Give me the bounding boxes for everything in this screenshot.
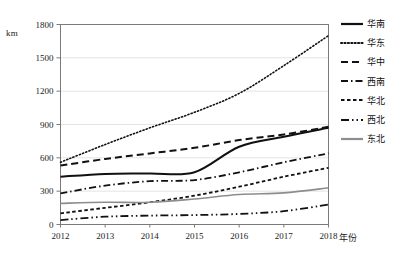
legend-label: 华东 <box>367 36 385 49</box>
x-tick-label: 2012 <box>52 231 70 241</box>
gridlines <box>61 25 329 192</box>
legend-label: 西北 <box>367 113 385 126</box>
x-axis-ticks: 2012201320142015201620172018 <box>52 225 339 241</box>
legend-swatch-华东 <box>340 38 364 48</box>
legend-swatch-东北 <box>340 134 364 144</box>
legend-label: 西南 <box>367 75 385 88</box>
legend-swatch-西南 <box>340 76 364 86</box>
x-tick-label: 2017 <box>275 231 294 241</box>
legend-swatch-西北 <box>340 115 364 125</box>
legend-item-华南[interactable]: 华南 <box>340 14 400 33</box>
chart-legend: 华南华东华中西南华北西北东北 <box>340 14 400 148</box>
y-tick-label: 900 <box>40 120 54 130</box>
legend-label: 东北 <box>367 132 385 145</box>
y-tick-label: 1200 <box>36 86 55 96</box>
legend-item-华东[interactable]: 华东 <box>340 33 400 52</box>
legend-swatch-华北 <box>340 95 364 105</box>
x-axis-title: 年份 <box>339 231 357 244</box>
line-chart: 0300600900120015001800 20122013201420152… <box>0 0 401 257</box>
y-tick-label: 0 <box>49 220 54 230</box>
y-tick-label: 1800 <box>36 20 55 30</box>
legend-label: 华南 <box>367 17 385 30</box>
x-tick-label: 2016 <box>230 231 249 241</box>
y-tick-label: 600 <box>40 153 54 163</box>
legend-item-西北[interactable]: 西北 <box>340 110 400 129</box>
y-tick-label: 300 <box>40 186 54 196</box>
x-tick-label: 2014 <box>141 231 160 241</box>
y-axis-unit-label: km <box>6 28 18 38</box>
y-axis-ticks: 0300600900120015001800 <box>36 20 61 230</box>
series-line-华南 <box>61 128 329 177</box>
legend-label: 华北 <box>367 94 385 107</box>
x-tick-label: 2018 <box>320 231 339 241</box>
legend-swatch-华南 <box>340 19 364 29</box>
series-line-华中 <box>61 127 329 166</box>
x-tick-label: 2015 <box>186 231 205 241</box>
data-series-layer <box>61 36 329 220</box>
legend-item-西南[interactable]: 西南 <box>340 72 400 91</box>
y-tick-label: 1500 <box>36 53 55 63</box>
x-tick-label: 2013 <box>96 231 115 241</box>
legend-item-华中[interactable]: 华中 <box>340 52 400 71</box>
series-line-西北 <box>61 205 329 221</box>
series-line-华东 <box>61 36 329 163</box>
legend-item-东北[interactable]: 东北 <box>340 129 400 148</box>
legend-label: 华中 <box>367 55 385 68</box>
legend-swatch-华中 <box>340 57 364 67</box>
legend-item-华北[interactable]: 华北 <box>340 91 400 110</box>
